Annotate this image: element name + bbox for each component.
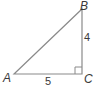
- side-label-ac: 5: [45, 75, 51, 87]
- vertex-label-a: A: [2, 71, 11, 85]
- triangle-abc: [14, 9, 82, 74]
- triangle-diagram: A B C 4 5: [0, 0, 93, 87]
- vertex-label-c: C: [84, 72, 93, 86]
- right-angle-marker: [75, 67, 82, 74]
- vertex-label-b: B: [80, 0, 88, 13]
- side-label-bc: 4: [84, 31, 90, 43]
